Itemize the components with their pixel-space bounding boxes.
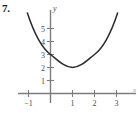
y-axis-label: y bbox=[52, 4, 57, 13]
y-tick-label-2: 2 bbox=[41, 64, 45, 73]
x-axis-label: x bbox=[132, 86, 137, 94]
graph-plot: −1 1 2 3 1 2 3 4 5 y x bbox=[0, 0, 139, 116]
figure-container: 7. −1 1 2 3 1 2 3 4 5 y x bbox=[0, 0, 139, 116]
x-tick-label-3: 3 bbox=[115, 99, 119, 108]
y-tick-label-4: 4 bbox=[41, 38, 45, 47]
x-tick-label-1: 1 bbox=[71, 99, 75, 108]
y-tick-label-3: 3 bbox=[41, 51, 45, 60]
y-tick-label-1: 1 bbox=[41, 77, 45, 86]
y-tick-label-5: 5 bbox=[41, 25, 45, 34]
x-tick-label-2: 2 bbox=[93, 99, 97, 108]
x-tick-label-neg1: −1 bbox=[24, 99, 33, 108]
